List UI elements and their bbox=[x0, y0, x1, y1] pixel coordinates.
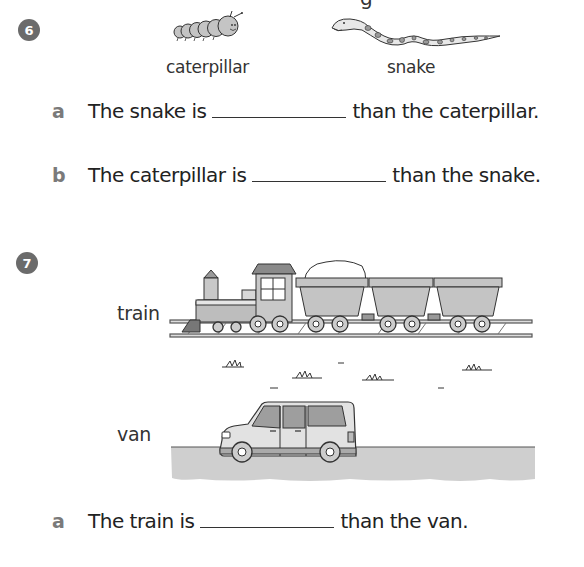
part-letter: b bbox=[52, 164, 88, 186]
sentence-end: than the caterpillar. bbox=[352, 99, 538, 123]
sentence-end: than the van. bbox=[340, 509, 468, 533]
train-icon bbox=[166, 256, 538, 342]
answer-blank-6a[interactable] bbox=[212, 116, 346, 118]
question-6b: b The caterpillar is than the snake. bbox=[52, 163, 541, 187]
question-6-badge: 6 bbox=[18, 19, 40, 41]
van-icon bbox=[218, 400, 364, 468]
van-label: van bbox=[117, 423, 151, 445]
grass-tufts-decoration bbox=[210, 358, 510, 394]
question-7a: a The train is than the van. bbox=[52, 509, 468, 533]
question-7-badge: 7 bbox=[16, 252, 38, 274]
answer-blank-6b[interactable] bbox=[252, 180, 386, 182]
answer-blank-7a[interactable] bbox=[200, 526, 334, 528]
part-letter: a bbox=[52, 100, 88, 122]
sentence-start: The train is bbox=[88, 509, 194, 533]
caterpillar-label: caterpillar bbox=[166, 57, 249, 77]
cutoff-heading-text: g bbox=[360, 0, 373, 10]
part-letter: a bbox=[52, 510, 88, 532]
snake-label: snake bbox=[387, 57, 435, 77]
question-6a: a The snake is than the caterpillar. bbox=[52, 99, 539, 123]
snake-icon bbox=[328, 14, 504, 48]
caterpillar-icon bbox=[172, 10, 252, 44]
sentence-end: than the snake. bbox=[392, 163, 540, 187]
sentence-start: The caterpillar is bbox=[88, 163, 246, 187]
sentence-start: The snake is bbox=[88, 99, 206, 123]
train-label: train bbox=[117, 302, 160, 324]
